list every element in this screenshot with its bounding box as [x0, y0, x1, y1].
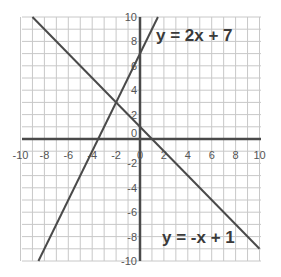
equation-label-line2: y = -x + 1	[162, 228, 235, 248]
svg-text:10: 10	[253, 149, 265, 161]
svg-text:10: 10	[125, 11, 137, 23]
svg-text:4: 4	[131, 84, 137, 96]
svg-text:-8: -8	[127, 231, 137, 243]
svg-text:8: 8	[131, 35, 137, 47]
coordinate-plane: -10-8-6-4-20246810-10-8-6-4-22468100	[0, 0, 281, 277]
svg-text:-10: -10	[121, 255, 137, 267]
svg-text:-8: -8	[40, 149, 50, 161]
svg-text:-6: -6	[63, 149, 73, 161]
svg-text:-2: -2	[111, 149, 121, 161]
svg-text:-6: -6	[127, 206, 137, 218]
svg-text:8: 8	[233, 149, 239, 161]
svg-text:0: 0	[137, 149, 143, 161]
svg-text:-4: -4	[127, 182, 137, 194]
svg-text:-2: -2	[127, 157, 137, 169]
equation-label-line1: y = 2x + 7	[156, 26, 233, 46]
svg-text:0: 0	[131, 127, 137, 139]
svg-text:4: 4	[185, 149, 191, 161]
svg-text:6: 6	[209, 149, 215, 161]
svg-text:-10: -10	[13, 149, 29, 161]
